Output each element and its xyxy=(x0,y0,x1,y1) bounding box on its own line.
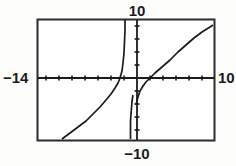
window-label-ymin: −10 xyxy=(112,146,162,161)
window-label-xmin: −14 xyxy=(3,70,28,85)
calculator-graph-canvas xyxy=(0,0,236,166)
window-label-xmax: 10 xyxy=(218,70,236,85)
window-label-ymax: 10 xyxy=(112,3,162,18)
plot-frame-border xyxy=(38,20,215,141)
graphing-calculator-screenshot: 10 −10 −14 10 xyxy=(0,0,236,166)
